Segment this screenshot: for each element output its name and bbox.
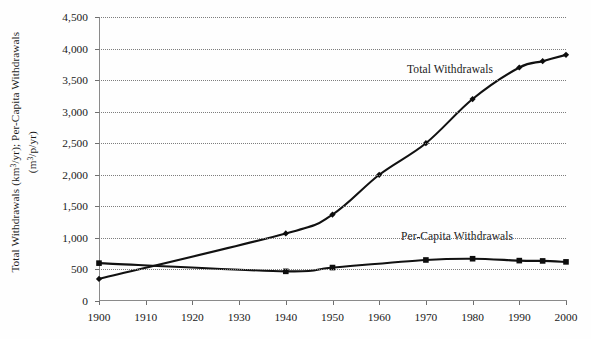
data-point-square: [470, 256, 476, 262]
data-point-square: [423, 257, 429, 263]
series-total-withdrawals: [96, 52, 569, 282]
data-point-square: [517, 258, 523, 264]
data-point-diamond: [540, 58, 546, 64]
y-axis-tick-label: 0: [42, 296, 88, 306]
y-axis-tick-label: 1,500: [42, 201, 88, 211]
y-axis-tick: [95, 206, 99, 207]
gridline: [99, 175, 566, 176]
y-axis-tick: [95, 80, 99, 81]
gridline: [99, 80, 566, 81]
y-axis-tick: [95, 175, 99, 176]
gridline: [99, 49, 566, 50]
y-axis-tick: [95, 238, 99, 239]
x-axis-tick: [473, 301, 474, 305]
x-axis-tick-label: 1910: [123, 311, 169, 323]
y-axis-tick-label: 2,500: [42, 138, 88, 148]
gridline: [99, 143, 566, 144]
x-axis-tick-label: 1900: [76, 311, 122, 323]
data-point-diamond: [283, 230, 289, 236]
x-axis-tick-label: 1950: [310, 311, 356, 323]
y-axis-tick: [95, 49, 99, 50]
x-axis-tick-label: 2000: [543, 311, 589, 323]
gridline: [99, 269, 566, 270]
y-axis-tick-label: 1,000: [42, 233, 88, 243]
chart-figure: Total Withdrawals (km3/yr); Per-Capita W…: [0, 0, 591, 339]
x-axis-tick-label: 1970: [403, 311, 449, 323]
y-axis-tick-label: 4,000: [42, 44, 88, 54]
y-axis-tick-labels: 05001,0001,5002,0002,5003,0003,5004,0004…: [42, 0, 88, 339]
x-axis-tick: [239, 301, 240, 305]
y-axis-tick: [95, 112, 99, 113]
x-axis-tick-label: 1930: [216, 311, 262, 323]
y-axis-tick: [95, 269, 99, 270]
series-trend-line: [99, 55, 566, 279]
x-axis-tick: [192, 301, 193, 305]
plot-area: Total Withdrawals Per-Capita Withdrawals: [99, 17, 566, 301]
x-axis-tick: [379, 301, 380, 305]
x-axis-tick: [519, 301, 520, 305]
x-axis-tick: [146, 301, 147, 305]
x-axis-tick-label: 1920: [169, 311, 215, 323]
y-axis-tick: [95, 17, 99, 18]
x-axis-tick: [426, 301, 427, 305]
y-axis-tick-label: 3,500: [42, 75, 88, 85]
gridline: [99, 112, 566, 113]
gridline: [99, 17, 566, 18]
gridline: [99, 206, 566, 207]
x-axis-tick: [286, 301, 287, 305]
y-axis-title-line1: Total Withdrawals (km3/yr); Per-Capita W…: [9, 32, 21, 273]
data-point-square: [96, 260, 102, 266]
data-point-square: [540, 258, 546, 264]
chart-series-layer: [99, 17, 566, 301]
x-axis-tick: [566, 301, 567, 305]
x-axis-tick-label: 1960: [356, 311, 402, 323]
x-axis-tick-label: 1990: [496, 311, 542, 323]
y-axis-title: Total Withdrawals (km3/yr); Per-Capita W…: [0, 0, 46, 305]
series-per-capita-withdrawals: [96, 256, 569, 274]
y-axis-tick: [95, 143, 99, 144]
x-axis-tick: [99, 301, 100, 305]
y-axis-title-line2: (m3/p/yr): [23, 32, 40, 273]
y-axis-tick-label: 3,000: [42, 107, 88, 117]
y-axis-tick-label: 500: [42, 264, 88, 274]
data-point-diamond: [96, 276, 102, 282]
x-axis-tick: [333, 301, 334, 305]
data-point-diamond: [563, 52, 569, 58]
y-axis-tick-label: 4,500: [42, 12, 88, 22]
annotation-per-capita-withdrawals: Per-Capita Withdrawals: [401, 230, 513, 242]
x-axis-tick-label: 1980: [450, 311, 496, 323]
x-axis-tick-label: 1940: [263, 311, 309, 323]
gridline: [99, 238, 566, 239]
data-point-square: [563, 259, 569, 265]
y-axis-tick-label: 2,000: [42, 170, 88, 180]
annotation-total-withdrawals: Total Withdrawals: [407, 63, 493, 75]
